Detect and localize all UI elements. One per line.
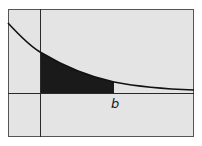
plot-frame <box>9 10 194 137</box>
b-label: b <box>111 96 119 111</box>
area-under-curve-diagram: b <box>0 0 202 146</box>
